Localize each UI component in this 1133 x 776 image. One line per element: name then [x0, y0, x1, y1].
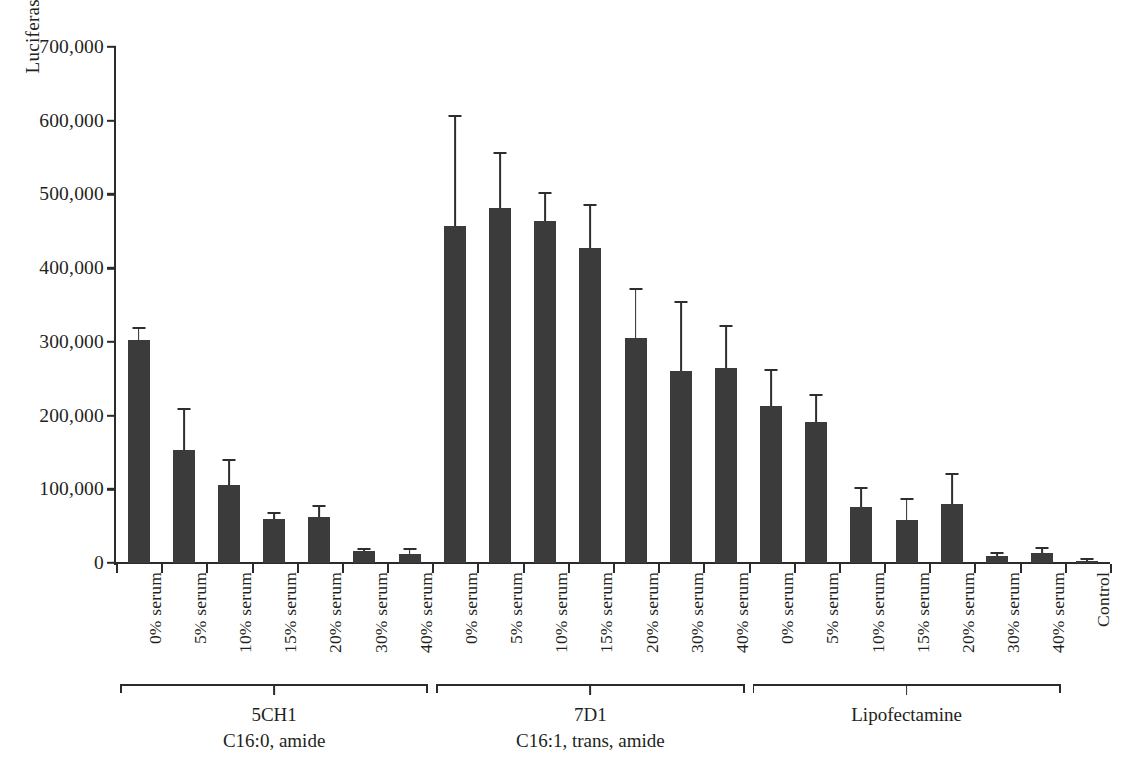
- bar[interactable]: [173, 450, 195, 563]
- bar[interactable]: [715, 368, 737, 563]
- x-axis-label: 0% serum: [777, 572, 798, 644]
- bar-slot: [613, 47, 658, 563]
- bar[interactable]: [1076, 561, 1098, 563]
- error-bar-cap: [539, 192, 552, 194]
- error-bar-stem: [409, 550, 411, 554]
- error-bar-cap: [900, 498, 913, 500]
- bar-slot: [703, 47, 748, 563]
- y-tick-label: 100,000: [0, 480, 104, 500]
- bar[interactable]: [489, 208, 511, 563]
- group-subtitle: C16:0, amide: [120, 730, 428, 752]
- y-tick-label: 600,000: [0, 111, 104, 131]
- y-tick-mark: [107, 488, 116, 490]
- error-bar-stem: [544, 194, 546, 221]
- bar[interactable]: [128, 340, 150, 563]
- bar-slot: [1020, 47, 1065, 563]
- y-tick-label: 700,000: [0, 37, 104, 57]
- error-bar-cap: [674, 301, 687, 303]
- group-title: Lipofectamine: [753, 704, 1061, 726]
- y-tick-label: 0: [0, 553, 104, 573]
- error-bar-stem: [183, 410, 185, 451]
- bracket-end-right: [426, 684, 428, 693]
- bar-slot: [929, 47, 974, 563]
- bar[interactable]: [399, 554, 421, 563]
- bar-slot: [839, 47, 884, 563]
- bracket-end-left: [753, 684, 755, 693]
- group-bracket: [436, 684, 744, 685]
- bar[interactable]: [896, 520, 918, 563]
- bar[interactable]: [1031, 553, 1053, 563]
- y-tick-label: 300,000: [0, 332, 104, 352]
- x-axis-label: 20% serum: [958, 572, 979, 653]
- error-bar-cap: [765, 369, 778, 371]
- x-axis-label: 15% serum: [280, 572, 301, 653]
- bar-slot: [477, 47, 522, 563]
- error-bar-stem: [1086, 560, 1088, 561]
- error-bar-stem: [680, 303, 682, 371]
- bar[interactable]: [670, 371, 692, 563]
- error-bar-stem: [725, 327, 727, 368]
- error-bar-cap: [629, 288, 642, 290]
- error-bar-cap: [313, 505, 326, 507]
- error-bar-cap: [719, 325, 732, 327]
- bar[interactable]: [353, 551, 375, 563]
- bar-slot: [974, 47, 1019, 563]
- x-axis-label: 30% serum: [1003, 572, 1024, 653]
- bar-slot: [568, 47, 613, 563]
- bar-slot: [342, 47, 387, 563]
- bar[interactable]: [986, 556, 1008, 563]
- bracket-end-right: [743, 684, 745, 693]
- bar-slot: [252, 47, 297, 563]
- chart-figure: Luciferase (RLU/µg) 0100,000200,000300,0…: [0, 0, 1133, 776]
- error-bar-stem: [815, 396, 817, 422]
- bar-slot: [794, 47, 839, 563]
- bar[interactable]: [850, 507, 872, 563]
- bar[interactable]: [579, 248, 601, 563]
- bracket-end-left: [120, 684, 122, 693]
- error-bar-stem: [906, 500, 908, 520]
- bar-slot: [161, 47, 206, 563]
- error-bar-stem: [951, 475, 953, 504]
- bar-slot: [297, 47, 342, 563]
- bar[interactable]: [625, 338, 647, 563]
- x-axis-label: 10% serum: [235, 572, 256, 653]
- y-tick-mark: [107, 120, 116, 122]
- bar-slot: [116, 47, 161, 563]
- error-bar-cap: [494, 152, 507, 154]
- x-tick-mark: [116, 564, 118, 573]
- bar-slot: [387, 47, 432, 563]
- y-tick-label: 200,000: [0, 406, 104, 426]
- x-axis-label: 15% serum: [596, 572, 617, 653]
- bar[interactable]: [760, 406, 782, 563]
- x-axis-label: 5% serum: [190, 572, 211, 644]
- bar[interactable]: [534, 221, 556, 563]
- x-axis-label: 5% serum: [506, 572, 527, 644]
- error-bar-cap: [855, 487, 868, 489]
- x-axis-label: 20% serum: [642, 572, 663, 653]
- error-bar-cap: [222, 459, 235, 461]
- error-bar-stem: [228, 461, 230, 485]
- error-bar-stem: [364, 550, 366, 551]
- error-bar-cap: [448, 115, 461, 117]
- error-bar-cap: [358, 548, 371, 550]
- x-axis-label: Control: [1093, 572, 1114, 627]
- bar-slot: [1065, 47, 1110, 563]
- bar[interactable]: [444, 226, 466, 563]
- x-axis-label: 0% serum: [461, 572, 482, 644]
- bar[interactable]: [308, 517, 330, 563]
- error-bar-stem: [861, 489, 863, 507]
- x-axis-label: 40% serum: [416, 572, 437, 653]
- bar[interactable]: [263, 519, 285, 563]
- group-bracket: [120, 684, 428, 685]
- plot-area: [116, 47, 1110, 563]
- x-axis-label: 0% serum: [145, 572, 166, 644]
- x-axis-label: 15% serum: [913, 572, 934, 653]
- x-axis-label: 20% serum: [325, 572, 346, 653]
- bar-slot: [432, 47, 477, 563]
- bar[interactable]: [805, 422, 827, 563]
- error-bar-stem: [138, 329, 140, 341]
- bar[interactable]: [218, 485, 240, 563]
- error-bar-stem: [770, 371, 772, 406]
- error-bar-cap: [177, 408, 190, 410]
- bar[interactable]: [941, 504, 963, 563]
